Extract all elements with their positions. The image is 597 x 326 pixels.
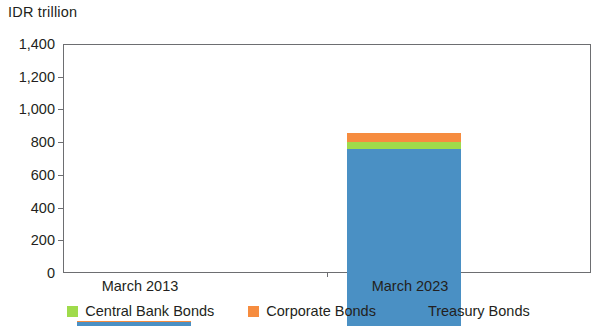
- legend-swatch-central-bank-bonds: [67, 306, 78, 317]
- plot-area: [63, 44, 591, 273]
- legend-item-corporate-bonds[interactable]: Corporate Bonds: [248, 303, 376, 319]
- x-axis-label-march-2013: March 2013: [50, 278, 230, 294]
- y-axis-tick-label: 400: [31, 200, 55, 215]
- chart-legend: Central Bank BondsCorporate BondsTreasur…: [0, 303, 597, 319]
- y-axis-tick-label: 1,400: [19, 37, 55, 52]
- bar-stack-march-2023[interactable]: [347, 133, 461, 326]
- legend-item-central-bank-bonds[interactable]: Central Bank Bonds: [67, 303, 214, 319]
- x-axis-label-march-2023: March 2023: [320, 278, 500, 294]
- legend-swatch-corporate-bonds: [248, 306, 259, 317]
- x-axis-tick-mark: [327, 272, 328, 277]
- legend-label: Central Bank Bonds: [85, 303, 214, 319]
- legend-item-treasury-bonds[interactable]: Treasury Bonds: [410, 303, 530, 319]
- bar-segment-treasury-bonds[interactable]: [347, 149, 461, 326]
- y-axis-tick-label: 1,000: [19, 102, 55, 117]
- legend-swatch-treasury-bonds: [410, 306, 421, 317]
- stacked-bar-chart: IDR trillion 02004006008001,0001,2001,40…: [0, 0, 597, 326]
- bar-segment-central-bank-bonds[interactable]: [347, 142, 461, 149]
- bar-segment-corporate-bonds[interactable]: [347, 133, 461, 142]
- bar-segment-treasury-bonds[interactable]: [77, 322, 191, 326]
- bar-stack-march-2013[interactable]: [77, 321, 191, 326]
- y-axis-tick-label: 200: [31, 233, 55, 248]
- legend-label: Treasury Bonds: [428, 303, 530, 319]
- y-axis-tick-label: 600: [31, 168, 55, 183]
- y-axis-tick-label: 800: [31, 135, 55, 150]
- y-axis-tick-label: 1,200: [19, 69, 55, 84]
- legend-label: Corporate Bonds: [266, 303, 376, 319]
